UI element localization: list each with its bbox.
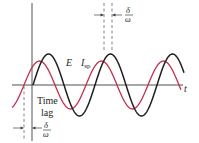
isp-label-sub: sp (84, 62, 91, 70)
isp-label: Isp (80, 57, 91, 70)
t-axis-label: t (184, 83, 187, 94)
phase-lag-diagram: t E Isp δ ω Time lag δ ω (0, 0, 199, 143)
e-label: E (65, 57, 72, 68)
bottom-arrow-left-head (21, 127, 25, 130)
bottom-arrow-right-head (32, 127, 36, 130)
top-arrow-right-head (112, 14, 116, 17)
top-omega: ω (125, 15, 131, 24)
time-lag-label-line1: Time (37, 95, 58, 106)
top-delta: δ (126, 5, 131, 15)
bottom-delta: δ (44, 120, 49, 130)
bottom-omega: ω (43, 130, 49, 139)
time-lag-label-line2: lag (41, 107, 53, 118)
top-arrow-left-head (101, 14, 105, 17)
